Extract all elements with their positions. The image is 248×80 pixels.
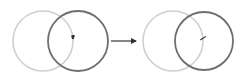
after-dark-circle — [175, 12, 233, 70]
after-state — [143, 11, 233, 71]
diagram-stage — [0, 0, 248, 80]
before-light-circle — [13, 11, 73, 71]
after-light-circle — [143, 11, 203, 71]
before-dark-circle — [48, 11, 108, 71]
before-intersection-marker-icon — [71, 35, 75, 39]
circle-transition-diagram — [0, 0, 248, 80]
before-state — [13, 11, 108, 71]
